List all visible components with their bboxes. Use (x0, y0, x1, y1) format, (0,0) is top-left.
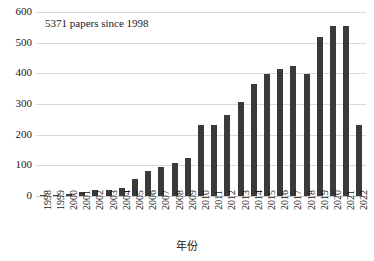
y-axis-tick-label: 400 (0, 67, 32, 78)
bar[interactable] (224, 115, 230, 196)
x-axis-tick: 1999 (49, 198, 62, 242)
bar-slot (115, 12, 128, 196)
bar[interactable] (356, 125, 362, 196)
bar-slot (181, 12, 194, 196)
x-axis-tick: 2015 (260, 198, 273, 242)
bar-chart: 6005004003002001000 5371 papers since 19… (0, 0, 374, 261)
bar-slot (287, 12, 300, 196)
bar[interactable] (290, 66, 296, 196)
x-axis-tick: 2011 (208, 198, 221, 242)
x-axis-tick: 2013 (234, 198, 247, 242)
bar[interactable] (343, 26, 349, 196)
bar-slot (62, 12, 75, 196)
bar[interactable] (317, 37, 323, 196)
bar-slot (168, 12, 181, 196)
y-axis-tick-label: 500 (0, 37, 32, 48)
bar-slot (155, 12, 168, 196)
y-axis-tick-label: 100 (0, 159, 32, 170)
x-axis-tick: 2018 (300, 198, 313, 242)
x-axis-tick: 2016 (274, 198, 287, 242)
chart-annotation: 5371 papers since 1998 (45, 17, 149, 30)
x-axis-tick-label: 2022 (359, 190, 369, 210)
x-axis-tick: 2022 (353, 198, 366, 242)
x-axis-tick: 2000 (62, 198, 75, 242)
bar-slot (208, 12, 221, 196)
bar-slot (247, 12, 260, 196)
bar-slot (300, 12, 313, 196)
bar[interactable] (251, 84, 257, 196)
x-axis-tick: 2014 (247, 198, 260, 242)
y-axis: 6005004003002001000 (0, 12, 32, 196)
bar-series (36, 12, 366, 196)
x-axis-tick: 2009 (181, 198, 194, 242)
bar-slot (221, 12, 234, 196)
x-axis-tick: 2020 (326, 198, 339, 242)
bar-slot (89, 12, 102, 196)
plot-area (36, 12, 366, 196)
x-axis-tick: 2001 (76, 198, 89, 242)
y-axis-tick-label: 0 (0, 190, 32, 201)
bar-slot (353, 12, 366, 196)
x-axis-tick: 2019 (313, 198, 326, 242)
bar[interactable] (264, 74, 270, 196)
x-axis-tick: 2004 (115, 198, 128, 242)
y-axis-tick-label: 200 (0, 129, 32, 140)
bar[interactable] (198, 125, 204, 196)
bar-slot (102, 12, 115, 196)
y-axis-tick-label: 600 (0, 6, 32, 17)
bar-slot (142, 12, 155, 196)
bar-slot (128, 12, 141, 196)
bar-slot (340, 12, 353, 196)
x-axis-title: 年份 (0, 240, 374, 253)
x-axis-tick: 2007 (155, 198, 168, 242)
x-axis-tick: 2005 (128, 198, 141, 242)
bar-slot (76, 12, 89, 196)
x-axis-tick: 2006 (142, 198, 155, 242)
bar-slot (36, 12, 49, 196)
bar-slot (326, 12, 339, 196)
bar[interactable] (277, 69, 283, 196)
x-axis-tick: 2017 (287, 198, 300, 242)
y-axis-tick-label: 300 (0, 98, 32, 109)
bar-slot (234, 12, 247, 196)
bar[interactable] (238, 102, 244, 196)
x-axis-tick: 2021 (340, 198, 353, 242)
x-axis-tick: 2002 (89, 198, 102, 242)
x-axis-tick: 2010 (194, 198, 207, 242)
bar-slot (313, 12, 326, 196)
bar-slot (194, 12, 207, 196)
bar[interactable] (304, 74, 310, 196)
x-axis: 1998199920002001200220032004200520062007… (36, 198, 366, 242)
bar-slot (274, 12, 287, 196)
bar[interactable] (330, 26, 336, 196)
bar-slot (49, 12, 62, 196)
x-axis-tick: 2012 (221, 198, 234, 242)
x-axis-tick: 2003 (102, 198, 115, 242)
bar-slot (260, 12, 273, 196)
x-axis-tick: 1998 (36, 198, 49, 242)
bar[interactable] (211, 125, 217, 196)
x-axis-tick: 2008 (168, 198, 181, 242)
